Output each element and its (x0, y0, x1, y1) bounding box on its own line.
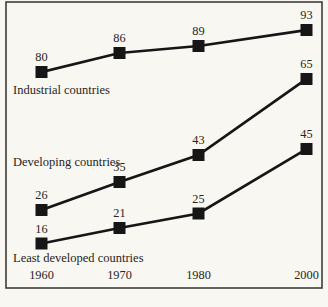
value-label-industrial-countries-1970: 86 (113, 31, 125, 45)
data-point-marker-developing-countries-1970 (114, 176, 126, 188)
chart-frame (6, 2, 322, 288)
line-chart: 808689932635436516212545Industrial count… (0, 0, 328, 307)
value-label-least-developed-countries-2000: 45 (300, 127, 312, 141)
value-label-industrial-countries-2000: 93 (300, 8, 312, 22)
value-label-least-developed-countries-1980: 25 (192, 192, 204, 206)
series-label-developing-countries: Developing countries (13, 155, 120, 169)
statistics-figure: 808689932635436516212545Industrial count… (0, 0, 328, 307)
series-label-least-developed-countries: Least developed countries (13, 251, 144, 265)
value-label-least-developed-countries-1970: 21 (113, 206, 125, 220)
data-point-marker-least-developed-countries-1960 (36, 238, 48, 250)
data-point-marker-developing-countries-1960 (36, 204, 48, 216)
data-point-marker-least-developed-countries-1970 (114, 222, 126, 234)
x-axis-label-1980: 1980 (186, 268, 211, 282)
series-line-developing-countries (42, 79, 307, 210)
data-point-marker-least-developed-countries-1980 (193, 208, 205, 220)
value-label-industrial-countries-1960: 80 (35, 50, 47, 64)
value-label-developing-countries-1980: 43 (192, 133, 204, 147)
series-label-industrial-countries: Industrial countries (13, 83, 110, 97)
series-line-industrial-countries (42, 30, 307, 72)
data-point-marker-least-developed-countries-2000 (301, 143, 313, 155)
x-axis-label-2000: 2000 (294, 268, 319, 282)
data-point-marker-developing-countries-2000 (301, 73, 313, 85)
data-point-marker-industrial-countries-1970 (114, 47, 126, 59)
value-label-industrial-countries-1980: 89 (192, 24, 204, 38)
data-point-marker-industrial-countries-1980 (193, 40, 205, 52)
value-label-developing-countries-2000: 65 (300, 57, 312, 71)
value-label-developing-countries-1960: 26 (35, 188, 47, 202)
data-point-marker-industrial-countries-1960 (36, 66, 48, 78)
data-point-marker-industrial-countries-2000 (301, 24, 313, 36)
value-label-least-developed-countries-1960: 16 (35, 222, 47, 236)
x-axis-label-1970: 1970 (107, 268, 132, 282)
x-axis-label-1960: 1960 (29, 268, 54, 282)
data-point-marker-developing-countries-1980 (193, 149, 205, 161)
